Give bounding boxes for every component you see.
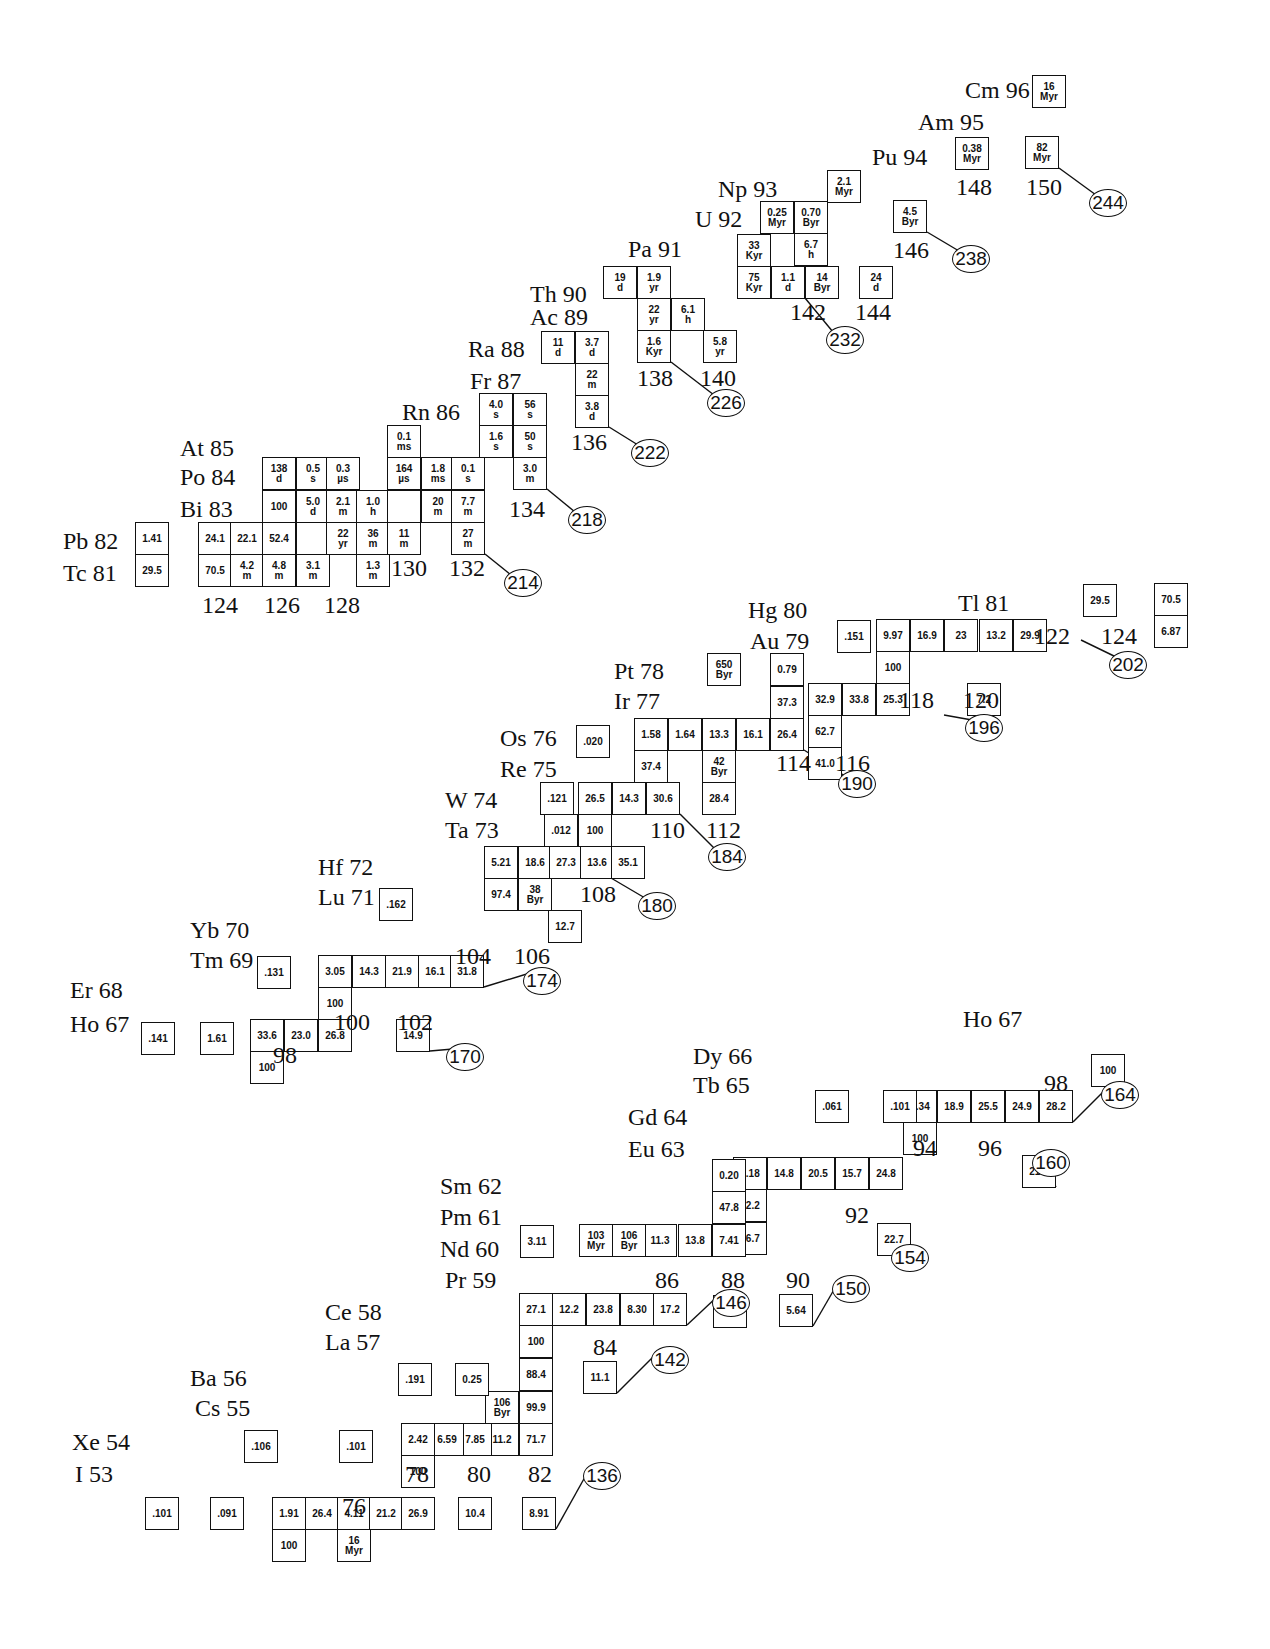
neutron-number: 96 [978, 1136, 1002, 1160]
nuclide-cell: 20m [421, 490, 455, 523]
cell-unit: m [464, 539, 473, 549]
cell-unit: d [785, 283, 791, 293]
cell-unit: h [370, 507, 376, 517]
nuclide-cell: 106Byr [612, 1224, 646, 1257]
cell-value: 0.1 [397, 432, 411, 442]
nuclide-cell: .101 [145, 1497, 179, 1530]
nuclide-cell: 16.1 [418, 955, 452, 988]
cell-value: 22 [337, 529, 348, 539]
cell-value: 15.7 [842, 1169, 861, 1179]
nuclide-cell: 3.05 [318, 955, 352, 988]
mass-number-circle: 232 [826, 326, 864, 354]
cell-value: 20.5 [808, 1169, 827, 1179]
nuclide-cell: 0.5s [296, 457, 330, 490]
nuclide-cell: 70.5 [198, 554, 232, 587]
nuclide-cell: 0.25 [455, 1363, 489, 1396]
cell-unit: Myr [1033, 153, 1051, 163]
cell-value: 22 [586, 370, 597, 380]
nuclide-cell: 24.9 [1005, 1090, 1039, 1123]
mass-number-circle: 164 [1101, 1081, 1139, 1109]
cell-value: 0.79 [777, 665, 796, 675]
nuclide-cell: 0.79 [770, 653, 804, 686]
element-label: Ho 67 [70, 1012, 129, 1036]
cell-value: 103 [588, 1231, 605, 1241]
cell-value: .191 [405, 1375, 424, 1385]
cell-value: 9.97 [883, 631, 902, 641]
cell-unit: s [527, 410, 533, 420]
cell-value: 0.3 [336, 464, 350, 474]
element-label: Dy 66 [693, 1044, 752, 1068]
cell-value: .101 [152, 1509, 171, 1519]
nuclide-cell: 88.4 [519, 1358, 553, 1391]
nuclide-cell: 12.2 [552, 1293, 586, 1326]
cell-unit: m [369, 539, 378, 549]
mass-number-circle: 184 [708, 843, 746, 871]
nuclide-cell: 7.7m [451, 490, 485, 523]
nuclide-cell: 23 [944, 619, 978, 652]
cell-value: 52.4 [269, 534, 288, 544]
nuclide-cell: 16Myr [337, 1529, 371, 1562]
cell-value: 3.1 [306, 561, 320, 571]
neutron-number: 118 [899, 688, 934, 712]
cell-value: 26.5 [585, 794, 604, 804]
cell-value: 41.0 [815, 759, 834, 769]
cell-value: 21.2 [376, 1509, 395, 1519]
nuclide-cell: 11m [387, 522, 421, 555]
nuclide-cell: 29.5 [1083, 584, 1117, 617]
cell-unit: s [493, 410, 499, 420]
cell-value: 47.8 [719, 1203, 738, 1213]
nuclide-cell: 97.4 [484, 878, 518, 911]
nuclide-cell: 1.91 [272, 1497, 306, 1530]
cell-value: 5.64 [786, 1306, 805, 1316]
element-label: Bi 83 [180, 497, 233, 521]
cell-value: 14 [816, 273, 827, 283]
nuclide-cell: 13.6 [580, 846, 614, 879]
cell-unit: m [309, 571, 318, 581]
cell-value: 88.4 [526, 1370, 545, 1380]
mass-number-circle: 226 [707, 389, 745, 417]
neutron-number: 144 [855, 300, 891, 324]
nuclide-cell: 1.61 [200, 1022, 234, 1055]
cell-value: 24.1 [205, 534, 224, 544]
cell-value: 106 [621, 1231, 638, 1241]
cell-value: 1.6 [489, 432, 503, 442]
cell-value: .141 [148, 1034, 167, 1044]
element-label: Eu 63 [628, 1137, 685, 1161]
cell-value: 6.87 [1161, 627, 1180, 637]
cell-unit: µs [398, 474, 409, 484]
cell-value: 10.4 [465, 1509, 484, 1519]
cell-value: 38 [529, 885, 540, 895]
cell-value: 23 [955, 631, 966, 641]
nuclide-cell: 29.5 [135, 554, 169, 587]
cell-value: 11.1 [591, 1373, 610, 1383]
nuclide-cell: 5.0d [296, 490, 330, 523]
nuclide-cell: 4.8m [262, 554, 296, 587]
nuclide-cell: 0.1ms [387, 425, 421, 458]
cell-unit: Byr [527, 895, 544, 905]
cell-value: 4.2 [240, 561, 254, 571]
cell-value: 28.2 [1046, 1102, 1065, 1112]
nuclide-cell: 8.30 [620, 1293, 654, 1326]
nuclide-cell: .012 [544, 814, 578, 847]
cell-value: 75 [748, 273, 759, 283]
nuclide-cell: 36m [356, 522, 390, 555]
neutron-number: 92 [845, 1203, 869, 1227]
cell-value: 1.41 [142, 534, 161, 544]
nuclide-cell: .121 [540, 782, 574, 815]
element-label: Ba 56 [190, 1366, 247, 1390]
element-label: Fr 87 [470, 369, 521, 393]
neutron-number: 136 [571, 430, 607, 454]
nuclide-cell: 1.64 [668, 718, 702, 751]
element-label: Lu 71 [318, 885, 375, 909]
cell-unit: ms [397, 442, 411, 452]
cell-value: 14.3 [359, 967, 378, 977]
cell-value: 97.4 [491, 890, 510, 900]
mass-number-circle: 170 [446, 1043, 484, 1071]
cell-value: 18.9 [944, 1102, 963, 1112]
nuclide-cell: 75Kyr [737, 266, 771, 299]
cell-value: 4.0 [489, 400, 503, 410]
nuclide-cell [296, 522, 330, 555]
cell-value: 37.4 [641, 762, 660, 772]
nuclide-cell: 17.2 [653, 1293, 687, 1326]
cell-value: 3.0 [523, 464, 537, 474]
